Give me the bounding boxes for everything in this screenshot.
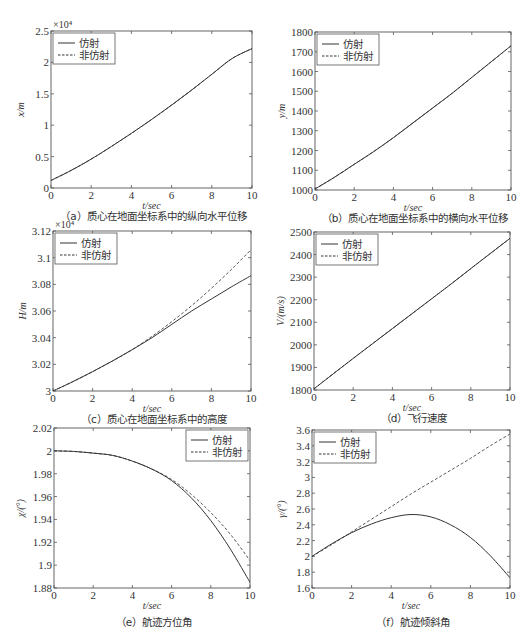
y-tick-label: 3.12 bbox=[32, 225, 51, 237]
y-tick-label: 3.4 bbox=[296, 440, 310, 452]
x-tick-label: 2 bbox=[88, 189, 94, 201]
subplot-caption: （f）航迹倾斜角 bbox=[376, 616, 450, 628]
x-tick-label: 0 bbox=[51, 589, 57, 601]
subplot-caption: （a）质心在地面坐标系中的纵向水平位移 bbox=[60, 210, 247, 222]
x-tick-label: 10 bbox=[505, 391, 517, 403]
x-tick-label: 0 bbox=[309, 589, 315, 601]
series-line-affine bbox=[53, 276, 251, 391]
subplot-caption: （c）质心在地面坐标系中的高度 bbox=[81, 413, 228, 425]
y-tick-label: 1.8 bbox=[296, 566, 310, 578]
legend-label: 仿射 bbox=[212, 434, 233, 446]
x-tick-label: 8 bbox=[209, 392, 215, 404]
x-tick-label: 2 bbox=[349, 589, 355, 601]
subplot-c: 024681033.023.043.063.083.13.12×10⁴t/sec… bbox=[17, 219, 257, 425]
series-line-nonaffine bbox=[53, 250, 251, 391]
x-tick-label: 8 bbox=[469, 191, 475, 203]
y-tick-label: 1700 bbox=[291, 46, 314, 58]
y-axis-label: H/m bbox=[17, 302, 28, 320]
legend-label: 仿射 bbox=[340, 436, 361, 448]
y-tick-label: 1800 bbox=[290, 384, 313, 396]
legend-label: 非仿射 bbox=[342, 250, 373, 262]
x-tick-label: 10 bbox=[246, 392, 258, 404]
x-tick-label: 4 bbox=[388, 589, 394, 601]
series-line-nonaffine bbox=[315, 46, 511, 189]
x-tick-label: 10 bbox=[506, 191, 518, 203]
subplot-caption: （e）航迹方位角 bbox=[116, 616, 192, 628]
y-tick-label: 1100 bbox=[291, 164, 313, 176]
y-tick-label: 3.02 bbox=[32, 358, 51, 370]
y-tick-label: 1.9 bbox=[38, 559, 52, 571]
x-tick-label: 4 bbox=[129, 392, 135, 404]
subplot-f: 02468101.61.822.22.42.62.833.23.43.6t/se… bbox=[276, 424, 516, 628]
legend-label: 仿射 bbox=[342, 238, 363, 250]
y-axis-label: x/m bbox=[15, 102, 26, 117]
legend-label: 非仿射 bbox=[81, 249, 112, 261]
y-tick-label: 3.1 bbox=[37, 252, 51, 264]
y-tick-label: 2.4 bbox=[296, 519, 310, 531]
legend-label: 非仿射 bbox=[212, 446, 243, 458]
y-tick-label: 1.98 bbox=[33, 468, 53, 480]
x-tick-label: 4 bbox=[391, 191, 397, 203]
x-tick-label: 6 bbox=[428, 589, 434, 601]
legend-label: 非仿射 bbox=[340, 448, 371, 460]
legend-label: 仿射 bbox=[81, 237, 102, 249]
y-tick-label: 0.5 bbox=[35, 151, 49, 163]
y-tick-label: 2.6 bbox=[296, 503, 310, 515]
x-tick-label: 10 bbox=[505, 589, 517, 601]
series-line-nonaffine bbox=[54, 451, 250, 561]
subplot-a: 024681000.511.522.5×10⁴t/secx/m（a）质心在地面坐… bbox=[15, 19, 258, 222]
y-tick-label: 3.04 bbox=[32, 332, 52, 344]
y-tick-label: 2.02 bbox=[33, 422, 52, 434]
x-tick-label: 6 bbox=[430, 191, 436, 203]
x-tick-label: 0 bbox=[312, 191, 318, 203]
x-axis-label: t/sec bbox=[143, 600, 162, 611]
x-tick-label: 2 bbox=[351, 191, 357, 203]
x-tick-label: 0 bbox=[311, 391, 317, 403]
y-tick-label: 1 bbox=[44, 119, 50, 131]
y-tick-label: 1000 bbox=[291, 184, 314, 196]
x-tick-label: 8 bbox=[208, 589, 214, 601]
y-tick-label: 1.88 bbox=[33, 582, 53, 594]
y-tick-label: 2.5 bbox=[35, 25, 49, 37]
y-tick-label: 1500 bbox=[291, 85, 314, 97]
y-axis-label: χ/(°) bbox=[15, 498, 27, 518]
y-exponent-label: ×10⁴ bbox=[55, 219, 75, 230]
x-axis-label: t/sec bbox=[402, 600, 421, 611]
x-tick-label: 6 bbox=[169, 589, 175, 601]
y-axis-label: y/m bbox=[276, 104, 287, 119]
y-tick-label: 2100 bbox=[290, 316, 313, 328]
series-line-nonaffine bbox=[51, 49, 252, 181]
legend-label: 非仿射 bbox=[343, 50, 374, 62]
y-tick-label: 2 bbox=[44, 56, 50, 68]
y-tick-label: 1.5 bbox=[35, 88, 49, 100]
y-axis-label: V/(m/s) bbox=[275, 296, 287, 326]
subplot-caption: （d）飞行速度 bbox=[381, 412, 449, 424]
y-tick-label: 2200 bbox=[290, 294, 313, 306]
subplot-d: 024681018001900200021002200230024002500t… bbox=[275, 226, 516, 424]
x-tick-label: 2 bbox=[350, 391, 356, 403]
subplot-b: 0246810100011001200130014001500160017001… bbox=[276, 26, 517, 224]
y-tick-label: 1.94 bbox=[33, 513, 53, 525]
y-tick-label: 2500 bbox=[290, 226, 313, 238]
y-tick-label: 3 bbox=[46, 385, 52, 397]
legend: 仿射非仿射 bbox=[314, 432, 376, 463]
y-tick-label: 1200 bbox=[291, 145, 314, 157]
y-tick-label: 2.2 bbox=[296, 535, 310, 547]
y-tick-label: 2300 bbox=[290, 271, 313, 283]
y-tick-label: 2.8 bbox=[296, 487, 310, 499]
legend-label: 仿射 bbox=[79, 37, 100, 49]
legend: 仿射非仿射 bbox=[317, 34, 379, 65]
legend: 仿射非仿射 bbox=[53, 33, 115, 64]
x-tick-label: 10 bbox=[247, 189, 259, 201]
series-line-affine bbox=[315, 46, 511, 189]
x-tick-label: 4 bbox=[130, 589, 136, 601]
x-tick-label: 0 bbox=[50, 392, 56, 404]
x-tick-label: 6 bbox=[169, 189, 175, 201]
y-tick-label: 1.92 bbox=[33, 536, 52, 548]
y-tick-label: 1900 bbox=[290, 361, 313, 373]
y-tick-label: 2000 bbox=[290, 339, 313, 351]
x-tick-label: 2 bbox=[90, 392, 96, 404]
x-tick-label: 8 bbox=[468, 589, 474, 601]
x-tick-label: 6 bbox=[169, 392, 175, 404]
figure-grid: 024681000.511.522.5×10⁴t/secx/m（a）质心在地面坐… bbox=[0, 0, 530, 641]
